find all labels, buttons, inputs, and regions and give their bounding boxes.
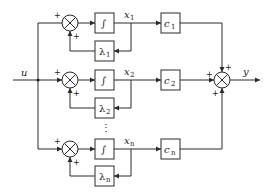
svg-text:c: c xyxy=(164,144,170,155)
branch-n: + + ∫ x n λ n c n + xyxy=(54,88,225,186)
svg-text:+: + xyxy=(206,70,213,79)
svg-text:∫: ∫ xyxy=(101,144,106,155)
svg-text:∫: ∫ xyxy=(101,75,106,86)
svg-text:c: c xyxy=(164,75,170,86)
svg-text:+: + xyxy=(73,89,80,98)
svg-text:2: 2 xyxy=(171,80,175,88)
svg-text:+: + xyxy=(54,137,61,146)
branch-1: + + ∫ x 1 λ 1 c 1 + xyxy=(54,9,232,72)
arrowhead xyxy=(57,147,62,152)
svg-text:2: 2 xyxy=(130,71,134,79)
integrator-symbol: ∫ xyxy=(101,18,106,29)
sign-plus: + xyxy=(54,11,61,20)
svg-text:+: + xyxy=(212,89,219,98)
sign-plus: + xyxy=(73,32,80,41)
output-arrowhead xyxy=(255,78,260,83)
input-label-u: u xyxy=(21,67,27,78)
svg-text:1: 1 xyxy=(171,23,175,31)
svg-text:λ: λ xyxy=(99,103,106,114)
svg-text:λ: λ xyxy=(99,46,106,57)
arrowhead xyxy=(57,78,62,83)
svg-text:λ: λ xyxy=(99,171,106,182)
svg-text:+: + xyxy=(54,68,61,77)
svg-text:n: n xyxy=(171,149,176,157)
svg-text:+: + xyxy=(73,158,80,167)
svg-text:2: 2 xyxy=(106,108,110,116)
svg-text:n: n xyxy=(130,140,135,148)
svg-text:n: n xyxy=(106,176,111,184)
branch-2: + + ∫ x 2 λ 2 c 2 + xyxy=(54,66,214,118)
svg-text:1: 1 xyxy=(130,14,134,22)
parallel-realization-diagram: u + + ∫ x 1 λ 1 c 1 + + + xyxy=(0,0,274,196)
svg-text:c: c xyxy=(164,18,170,29)
output-label-y: y xyxy=(242,66,249,77)
svg-text:+: + xyxy=(225,63,232,72)
vertical-ellipsis: ⋮ xyxy=(101,122,111,133)
svg-text:1: 1 xyxy=(106,51,110,59)
